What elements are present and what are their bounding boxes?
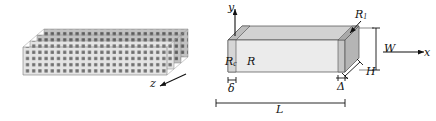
dimension-label-h: H	[366, 66, 376, 77]
region-label-r1: R1	[355, 9, 367, 21]
figure-vector-layer	[0, 0, 436, 121]
region-label-rc-sub: c	[233, 59, 236, 68]
end-slab-front	[338, 40, 345, 72]
y-axis-label: y	[228, 2, 234, 13]
layer-stack	[23, 29, 188, 75]
dimension-label-capital-delta: Δ	[337, 81, 345, 92]
region-label-r: R	[247, 56, 255, 67]
figure-canvas: z y x Rc R R1 W H L δ Δ	[0, 0, 436, 121]
region-label-r-base: R	[247, 55, 255, 68]
region-label-r1-sub: 1	[363, 12, 367, 21]
x-axis-label: x	[424, 47, 430, 58]
dimension-label-l: L	[276, 104, 283, 115]
z-axis-arrow	[160, 74, 186, 86]
z-axis-label: z	[150, 78, 156, 89]
region-label-rc: Rc	[225, 56, 237, 68]
dimension-label-delta: δ	[228, 83, 235, 94]
bar-front-face	[228, 40, 345, 72]
array-layer-1	[23, 47, 167, 75]
dimension-label-w: W	[384, 43, 395, 54]
